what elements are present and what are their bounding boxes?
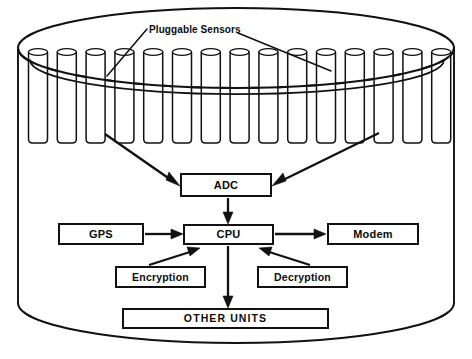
pluggable-sensors-label: Pluggable Sensors [149,24,241,35]
sensor-tube [374,52,393,143]
node-encryption-label: Encryption [132,272,189,283]
arrow-gps-to-cpu [145,229,183,239]
sensor-tube-cap [432,49,451,56]
sensor-tube [201,52,220,143]
sensor-tube-cap [115,49,134,56]
node-modem-label: Modem [353,229,393,240]
arrow-cpu-to-other-units [223,246,233,308]
sensor-tube [288,52,307,143]
sensor-tube [345,52,364,143]
sensor-tube-cap [259,49,278,56]
node-decryption-label: Decryption [274,272,331,283]
sensor-tube [144,52,163,143]
sensor-tube-cap [317,49,336,56]
arrow-decryption-to-cpu [259,247,310,265]
sensor-tube-cap [403,49,422,56]
sensor-tube-cap [144,49,163,56]
node-cpu: CPU [183,224,274,245]
node-adc-label: ADC [214,180,238,191]
sensor-tube [230,52,249,143]
node-other-units-label: OTHER UNITS [184,313,267,324]
node-gps-label: GPS [89,229,113,240]
sensor-tube-cap [57,49,76,56]
sensor-tube-cap [173,49,192,56]
sensor-tube-cap [345,49,364,56]
arrow-adc-to-cpu [223,198,233,224]
pluggable-sensor-tubes [29,49,451,143]
arrow-cpu-to-modem [275,229,326,239]
sensor-tube [403,52,422,143]
sensor-tube-cap [201,49,220,56]
node-adc: ADC [180,173,272,197]
arrow-sensors-left-to-adc [105,134,180,186]
sensor-tube-cap [29,49,48,56]
node-cpu-label: CPU [217,229,241,240]
node-gps: GPS [58,223,144,245]
sensor-tube-cap [230,49,249,56]
sensor-tube-cap [86,49,105,56]
diagram-canvas: Pluggable Sensors ADC CPU GPS Modem Encr… [0,0,472,359]
sensor-tube [259,52,278,143]
node-other-units: OTHER UNITS [122,308,329,329]
sensor-tube-cap [374,49,393,56]
arrow-encryption-to-cpu [149,247,200,265]
node-decryption: Decryption [257,266,348,288]
sensor-tube [173,52,192,143]
node-modem: Modem [327,223,419,245]
node-encryption: Encryption [115,266,206,288]
sensor-tube [86,52,105,143]
sensor-tube [57,52,76,143]
sensor-tube [115,52,134,143]
